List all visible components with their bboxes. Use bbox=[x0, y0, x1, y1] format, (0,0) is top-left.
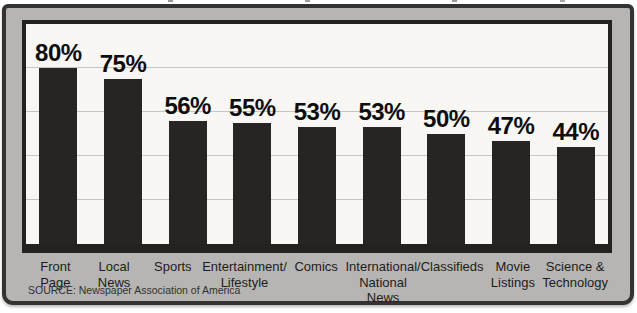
plot-panel: 80%75%56%55%53%53%50%47%44% bbox=[22, 20, 612, 253]
readership-bar-chart-figure: 80%75%56%55%53%53%50%47%44% Front PageLo… bbox=[0, 0, 637, 313]
bar bbox=[492, 141, 530, 244]
category-label: Sports bbox=[143, 259, 202, 306]
bar bbox=[104, 79, 142, 244]
bar-column: 55% bbox=[220, 24, 285, 244]
category-label: Movie Listings bbox=[484, 259, 543, 306]
bar bbox=[557, 147, 595, 244]
bar-column: 44% bbox=[543, 24, 608, 244]
bar-column: 53% bbox=[285, 24, 350, 244]
bar-value-label: 50% bbox=[423, 107, 470, 131]
bar-value-label: 53% bbox=[294, 100, 341, 124]
chart-frame: 80%75%56%55%53%53%50%47%44% Front PageLo… bbox=[2, 4, 634, 305]
plot-area: 80%75%56%55%53%53%50%47%44% bbox=[26, 24, 608, 244]
bar-column: 56% bbox=[155, 24, 220, 244]
bar bbox=[39, 68, 77, 244]
bar bbox=[169, 121, 207, 244]
category-label: Comics bbox=[287, 259, 346, 306]
category-label: Classifieds bbox=[421, 259, 484, 306]
bar-value-label: 44% bbox=[552, 120, 599, 144]
cropped-title-remnant bbox=[0, 0, 5, 2]
bar-column: 50% bbox=[414, 24, 479, 244]
category-label: Local News bbox=[85, 259, 144, 306]
bar bbox=[363, 127, 401, 244]
category-label: Science & Technology bbox=[542, 259, 608, 306]
bar-column: 75% bbox=[91, 24, 156, 244]
category-label: International/ National News bbox=[345, 259, 420, 306]
bar-value-label: 47% bbox=[488, 114, 535, 138]
bar-value-label: 75% bbox=[100, 52, 147, 76]
bar-column: 47% bbox=[479, 24, 544, 244]
bar-column: 53% bbox=[349, 24, 414, 244]
category-label: Entertainment/ Lifestyle bbox=[202, 259, 287, 306]
bar-value-label: 56% bbox=[164, 94, 211, 118]
bar bbox=[427, 134, 465, 244]
bar-value-label: 55% bbox=[229, 96, 276, 120]
source-note: SOURCE: Newspaper Association of America bbox=[28, 284, 240, 296]
bar-column: 80% bbox=[26, 24, 91, 244]
bar-value-label: 80% bbox=[35, 41, 82, 65]
category-labels: Front PageLocal NewsSportsEntertainment/… bbox=[26, 259, 608, 306]
bar-value-label: 53% bbox=[358, 100, 405, 124]
category-label: Front Page bbox=[26, 259, 85, 306]
bars-container: 80%75%56%55%53%53%50%47%44% bbox=[26, 24, 608, 244]
bar bbox=[298, 127, 336, 244]
bar bbox=[233, 123, 271, 244]
